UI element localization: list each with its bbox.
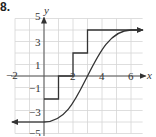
y-tick-label: −1 [29,83,41,94]
x-tick-label: 4 [99,71,105,82]
y-tick-label: −3 [29,107,41,118]
y-tick-label: 1 [35,60,41,71]
x-tick-label: 2 [70,71,76,82]
y-axis-label: y [44,5,49,16]
y-tick-label: 5 [35,11,41,22]
x-axis-label: x [147,70,152,81]
axes [11,18,146,137]
y-tick-label: 3 [35,37,41,48]
x-tick-label: 6 [128,71,134,82]
y-tick-label: −5 [29,128,41,136]
graph [0,0,156,136]
x-tick-label: −2 [6,70,18,81]
